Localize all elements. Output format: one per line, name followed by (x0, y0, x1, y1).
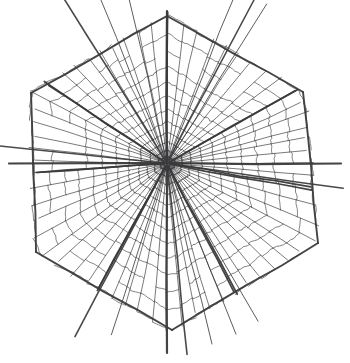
grid-line (106, 175, 107, 183)
figure-canvas (0, 0, 350, 363)
grid-line (141, 155, 142, 158)
grid-line (240, 144, 241, 149)
vertical-axis-spoke (166, 11, 167, 353)
horizontal-axis-spoke (9, 163, 341, 164)
grid-line (198, 172, 199, 176)
grid-line (80, 200, 81, 212)
grid-line (209, 170, 210, 175)
radial-grid-drawing (0, 0, 350, 363)
grid-line (140, 150, 141, 153)
